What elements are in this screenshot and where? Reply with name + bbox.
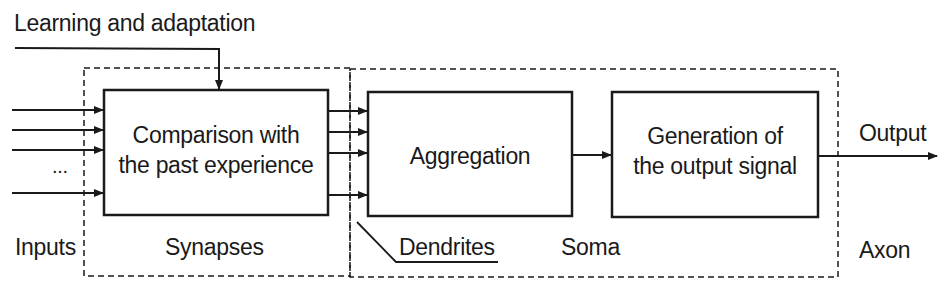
aggregation-line-1: Aggregation xyxy=(368,141,572,171)
inputs-ellipsis: ... xyxy=(52,156,68,176)
synapses-label: Synapses xyxy=(165,236,264,259)
generation-line-2: the output signal xyxy=(612,151,818,181)
soma-label: Soma xyxy=(561,236,620,259)
generation-line-1: Generation of xyxy=(612,121,818,151)
generation-block-text: Generation of the output signal xyxy=(612,121,818,181)
dendrite-arrows xyxy=(328,111,367,195)
inputs-label: Inputs xyxy=(15,236,76,259)
axon-label: Axon xyxy=(859,239,910,262)
comparison-block-text: Comparison with the past experience xyxy=(104,120,328,180)
input-arrows xyxy=(12,110,103,193)
output-label: Output xyxy=(859,122,926,145)
learning-and-adaptation-label: Learning and adaptation xyxy=(14,12,255,35)
dendrites-label: Dendrites xyxy=(399,236,495,259)
comparison-line-1: Comparison with xyxy=(104,120,328,150)
comparison-line-2: the past experience xyxy=(104,150,328,180)
aggregation-block-text: Aggregation xyxy=(368,141,572,171)
